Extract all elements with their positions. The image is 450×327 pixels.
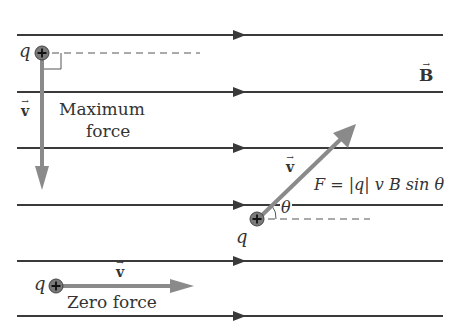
field-arrow-icon: [233, 30, 246, 40]
velocity-label-v: → v: [21, 104, 29, 118]
field-arrow-icon: [233, 143, 246, 153]
field-arrow-icon: [233, 256, 246, 266]
velocity-label-v: → v: [286, 160, 294, 174]
vector-arrow-mark: →: [419, 60, 433, 69]
field-arrowheads: [233, 30, 246, 321]
velocity-arrowhead-icon: [170, 279, 194, 293]
vector-arrow-mark: →: [116, 258, 124, 267]
velocity-label-v: → v: [116, 265, 124, 279]
caption-zero-force: Zero force: [67, 294, 157, 311]
velocity-arrowhead-icon: [35, 166, 49, 190]
charge-label-q: q: [236, 228, 248, 246]
charge-zero-force: [49, 279, 194, 293]
caption-force: force: [86, 123, 130, 140]
field-label-B: → B: [419, 67, 433, 84]
field-arrow-icon: [233, 200, 246, 210]
force-formula: F = |q| v B sin θ: [314, 177, 444, 193]
caption-maximum: Maximum: [59, 101, 145, 118]
magnetic-field-diagram: [0, 0, 450, 327]
field-arrow-icon: [233, 311, 246, 321]
angle-label-theta: θ: [280, 200, 292, 216]
vector-arrow-mark: →: [21, 97, 29, 106]
charge-label-q: q: [19, 42, 31, 60]
field-arrow-icon: [233, 87, 246, 97]
charge-label-q: q: [34, 275, 46, 293]
vector-arrow-mark: →: [286, 153, 294, 162]
angle-arc: [272, 206, 276, 219]
